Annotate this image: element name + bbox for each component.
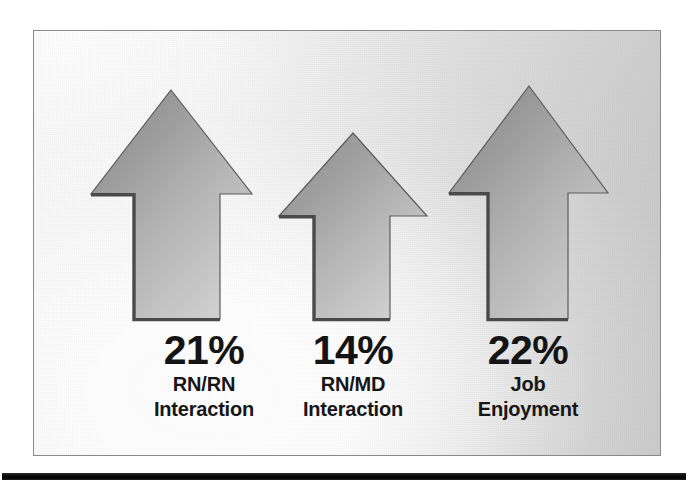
figure-canvas: 21% RN/RN Interaction 14% RN/MD Interact… bbox=[0, 0, 689, 485]
arrow-shape bbox=[449, 86, 608, 319]
metric-label-line-1: Job bbox=[431, 372, 625, 397]
arrow-shape bbox=[91, 90, 252, 319]
arrow-job-enjoyment bbox=[449, 86, 608, 320]
metric-label-line-2: Interaction bbox=[256, 397, 450, 422]
page-bottom-rule bbox=[2, 473, 686, 480]
metric-label-line-2: Enjoyment bbox=[431, 397, 625, 422]
metric-rn-md-interaction: 14% RN/MD Interaction bbox=[256, 328, 450, 422]
arrow-rn-rn-interaction bbox=[91, 90, 252, 320]
metric-job-enjoyment: 22% Job Enjoyment bbox=[431, 328, 625, 422]
metric-percent-value: 14% bbox=[256, 328, 450, 372]
figure-card: 21% RN/RN Interaction 14% RN/MD Interact… bbox=[33, 30, 661, 456]
arrow-rn-md-interaction bbox=[279, 133, 427, 320]
metric-percent-value: 22% bbox=[431, 328, 625, 372]
arrow-shape bbox=[279, 133, 427, 319]
metric-label-line-1: RN/MD bbox=[256, 372, 450, 397]
